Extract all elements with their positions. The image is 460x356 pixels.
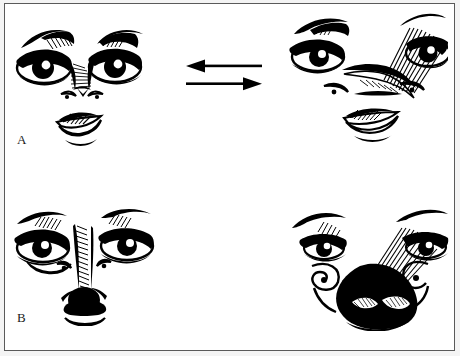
face-b-left <box>13 206 158 326</box>
panel-a: A <box>5 4 454 178</box>
panel-a-arrow-pair <box>186 59 262 93</box>
face-a-left <box>11 16 151 151</box>
face-b-right <box>284 206 449 331</box>
figure-root: A <box>0 0 460 356</box>
arrow-right <box>186 77 262 90</box>
panel-b: B <box>5 178 454 352</box>
face-a-right <box>288 8 448 153</box>
arrow-left <box>186 59 262 72</box>
figure-border-frame: A <box>4 3 455 351</box>
